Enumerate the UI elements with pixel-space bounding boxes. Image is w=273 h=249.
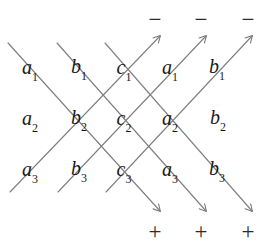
matrix-entry-b3-r3c5: b3 — [209, 158, 225, 182]
matrix-entry-a2-r2c1: a2 — [22, 108, 38, 132]
entry-base: b — [71, 55, 81, 77]
entry-subscript: 1 — [32, 70, 38, 84]
entry-subscript: 1 — [172, 70, 178, 84]
entry-base: c — [117, 56, 126, 78]
negative-sign-2: − — [195, 8, 208, 31]
positive-sign-2: + — [195, 220, 208, 243]
entry-base: b — [71, 106, 81, 128]
entry-base: b — [209, 157, 219, 179]
matrix-entry-b1-r1c2: b1 — [71, 56, 87, 80]
entry-subscript: 3 — [219, 171, 225, 185]
entry-base: a — [22, 56, 32, 78]
positive-sign-1: + — [149, 220, 162, 243]
entry-subscript: 2 — [172, 121, 178, 135]
entry-base: b — [209, 55, 219, 77]
entry-base: a — [162, 107, 172, 129]
matrix-entry-c2-r2c3: c2 — [117, 108, 132, 132]
entry-base: c — [117, 158, 126, 180]
entry-subscript: 2 — [220, 120, 226, 134]
entry-base: b — [210, 106, 220, 128]
positive-sign-3: + — [242, 220, 255, 243]
negative-sign-1: − — [149, 8, 162, 31]
diagonal-lines-layer — [0, 0, 273, 249]
entry-subscript: 1 — [219, 69, 225, 83]
matrix-entry-a2-r2c4: a2 — [162, 108, 178, 132]
entry-subscript: 2 — [32, 121, 38, 135]
entry-subscript: 2 — [125, 121, 131, 135]
matrix-entry-a3-r3c1: a3 — [22, 159, 38, 183]
matrix-entry-a3-r3c4: a3 — [162, 159, 178, 183]
entry-base: a — [22, 107, 32, 129]
entry-subscript: 1 — [125, 70, 131, 84]
sarrus-diagram: a1b1c1a1b1a2b2c2a2b2a3b3c3a3b3 −−−+++ — [0, 0, 273, 249]
entry-subscript: 1 — [81, 69, 87, 83]
entry-subscript: 2 — [81, 120, 87, 134]
entry-base: a — [162, 56, 172, 78]
entry-base: c — [117, 107, 126, 129]
entry-base: a — [22, 158, 32, 180]
negative-sign-3: − — [242, 8, 255, 31]
entry-subscript: 3 — [81, 171, 87, 185]
entry-subscript: 3 — [172, 172, 178, 186]
matrix-entry-a1-r1c4: a1 — [162, 57, 178, 81]
matrix-entry-b1-r1c5: b1 — [209, 56, 225, 80]
matrix-entry-b2-r2c5: b2 — [210, 107, 226, 131]
matrix-entry-c1-r1c3: c1 — [117, 57, 132, 81]
matrix-entry-b3-r3c2: b3 — [71, 158, 87, 182]
matrix-entry-c3-r3c3: c3 — [117, 159, 132, 183]
matrix-entry-a1-r1c1: a1 — [22, 57, 38, 81]
entry-base: b — [71, 157, 81, 179]
entry-subscript: 3 — [125, 172, 131, 186]
entry-subscript: 3 — [32, 172, 38, 186]
entry-base: a — [162, 158, 172, 180]
matrix-entry-b2-r2c2: b2 — [71, 107, 87, 131]
